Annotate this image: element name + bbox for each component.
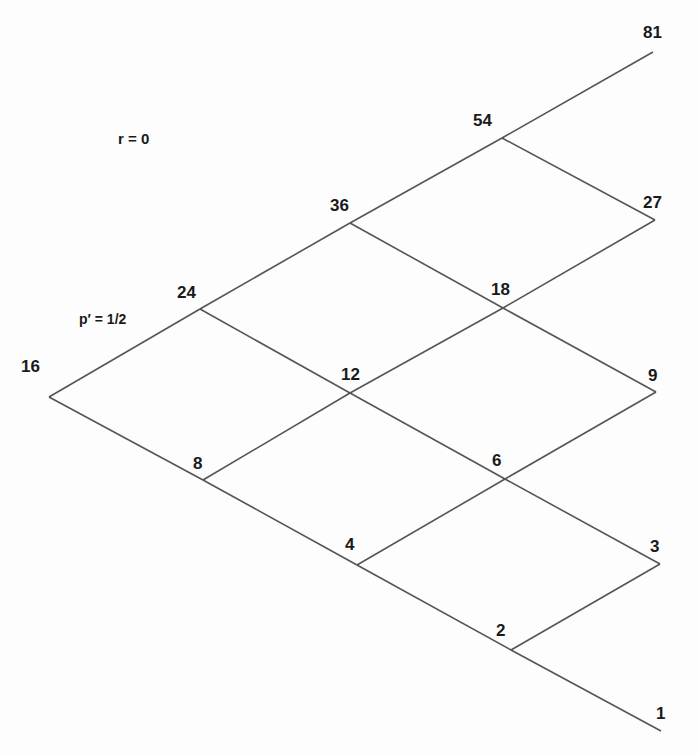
- node-label-1: 1: [656, 705, 665, 722]
- node-label-4: 4: [345, 536, 354, 553]
- edge-n54-n81: [502, 52, 653, 138]
- edge-n18-n9: [503, 308, 656, 392]
- edge-n54-n27: [502, 138, 655, 220]
- node-label-16: 16: [21, 358, 40, 375]
- node-label-2: 2: [496, 622, 505, 639]
- tree-edges: [49, 52, 661, 731]
- node-label-24: 24: [177, 284, 196, 301]
- edge-n24-n12: [200, 309, 350, 393]
- interest-rate-annotation: r = 0: [118, 131, 149, 146]
- edge-n24-n36: [200, 223, 350, 309]
- node-label-8: 8: [193, 455, 202, 472]
- edge-n18-n27: [503, 220, 655, 308]
- edge-n36-n54: [350, 138, 502, 223]
- node-label-36: 36: [330, 197, 349, 214]
- node-label-54: 54: [473, 112, 492, 129]
- edge-n2-n1: [511, 650, 661, 731]
- node-label-81: 81: [643, 24, 662, 41]
- edge-n36-n18: [350, 223, 503, 308]
- edge-n6-n3: [505, 479, 660, 564]
- edge-n8-n12: [203, 393, 350, 480]
- node-label-6: 6: [492, 452, 501, 469]
- edge-n8-n4: [203, 480, 357, 565]
- edge-n4-n6: [357, 479, 505, 565]
- edge-n4-n2: [357, 565, 511, 650]
- node-label-9: 9: [648, 367, 657, 384]
- node-label-18: 18: [491, 281, 510, 298]
- edge-n12-n18: [350, 308, 503, 393]
- edge-n2-n3: [511, 564, 660, 650]
- edge-n12-n6: [350, 393, 505, 479]
- node-label-27: 27: [643, 194, 662, 211]
- probability-annotation: p′ = 1/2: [79, 312, 126, 326]
- node-label-12: 12: [341, 366, 360, 383]
- edge-n16-n8: [49, 397, 203, 480]
- edge-n6-n9: [505, 392, 656, 479]
- node-label-3: 3: [650, 538, 659, 555]
